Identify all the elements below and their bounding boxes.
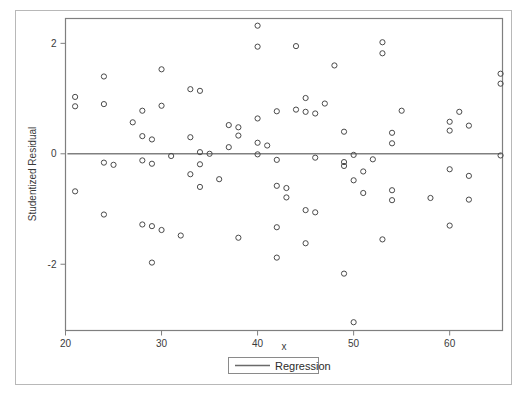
scatter-point — [149, 224, 154, 229]
scatter-point — [178, 233, 183, 238]
data-points — [73, 23, 504, 325]
scatter-point — [389, 188, 394, 193]
scatter-point — [389, 198, 394, 203]
x-tick-label: 30 — [156, 338, 168, 349]
scatter-point — [341, 129, 346, 134]
scatter-point — [140, 108, 145, 113]
x-axis-title: x — [282, 341, 287, 352]
scatter-point — [447, 119, 452, 124]
scatter-point — [73, 104, 78, 109]
y-axis-title: Studentized Residual — [27, 127, 38, 222]
scatter-point — [447, 128, 452, 133]
scatter-point — [265, 143, 270, 148]
scatter-point — [361, 169, 366, 174]
scatter-point — [274, 157, 279, 162]
scatter-point — [140, 222, 145, 227]
scatter-point — [351, 320, 356, 325]
chart-legend: Regression — [229, 358, 331, 374]
scatter-point — [399, 108, 404, 113]
scatter-point — [140, 134, 145, 139]
scatter-point — [466, 197, 471, 202]
scatter-point — [101, 212, 106, 217]
plot-frame — [66, 19, 503, 331]
scatter-point — [111, 162, 116, 167]
legend-label-regression: Regression — [275, 360, 331, 372]
scatter-point — [217, 177, 222, 182]
scatter-point — [313, 155, 318, 160]
scatter-point — [389, 130, 394, 135]
scatter-point — [303, 95, 308, 100]
chart-canvas: 20-2 2030405060 Studentized Residual x R… — [0, 0, 527, 396]
scatter-point — [447, 223, 452, 228]
scatter-point — [159, 227, 164, 232]
scatter-point — [73, 189, 78, 194]
x-tick-label: 20 — [60, 338, 72, 349]
scatter-point — [389, 141, 394, 146]
scatter-point — [284, 185, 289, 190]
scatter-point — [293, 44, 298, 49]
scatter-point — [255, 140, 260, 145]
x-tick-label: 40 — [252, 338, 264, 349]
scatter-point — [447, 167, 452, 172]
scatter-point — [274, 225, 279, 230]
scatter-point — [341, 271, 346, 276]
y-tick-label: 0 — [51, 148, 57, 159]
scatter-point — [159, 67, 164, 72]
x-tick-label: 60 — [444, 338, 456, 349]
scatter-point — [274, 255, 279, 260]
scatter-point — [380, 40, 385, 45]
scatter-point — [428, 195, 433, 200]
scatter-point — [197, 88, 202, 93]
scatter-point — [197, 184, 202, 189]
scatter-point — [101, 160, 106, 165]
scatter-point — [101, 74, 106, 79]
scatter-point — [101, 101, 106, 106]
scatter-point — [351, 178, 356, 183]
scatter-point — [73, 94, 78, 99]
scatter-point — [140, 158, 145, 163]
scatter-point — [197, 162, 202, 167]
scatter-point — [188, 87, 193, 92]
scatter-point — [159, 103, 164, 108]
scatter-point — [149, 260, 154, 265]
scatter-plot-chart: 20-2 2030405060 Studentized Residual x R… — [0, 0, 527, 396]
scatter-point — [457, 109, 462, 114]
scatter-point — [303, 208, 308, 213]
y-tick-label: -2 — [48, 259, 57, 270]
x-tick-label: 50 — [348, 338, 360, 349]
scatter-point — [293, 107, 298, 112]
scatter-point — [332, 63, 337, 68]
scatter-point — [255, 23, 260, 28]
scatter-point — [188, 135, 193, 140]
scatter-point — [322, 101, 327, 106]
scatter-point — [149, 137, 154, 142]
scatter-point — [226, 122, 231, 127]
scatter-point — [188, 172, 193, 177]
scatter-point — [236, 125, 241, 130]
scatter-point — [274, 183, 279, 188]
scatter-point — [130, 120, 135, 125]
scatter-point — [149, 161, 154, 166]
scatter-point — [303, 109, 308, 114]
scatter-point — [236, 133, 241, 138]
scatter-point — [380, 51, 385, 56]
scatter-point — [303, 241, 308, 246]
scatter-point — [380, 237, 385, 242]
scatter-point — [341, 163, 346, 168]
chart-page: 20-2 2030405060 Studentized Residual x R… — [0, 0, 527, 396]
y-axis-ticks: 20-2 — [48, 38, 66, 270]
scatter-point — [255, 116, 260, 121]
scatter-point — [284, 195, 289, 200]
scatter-point — [226, 145, 231, 150]
x-axis-ticks: 2030405060 — [60, 331, 456, 349]
scatter-point — [236, 235, 241, 240]
scatter-point — [255, 44, 260, 49]
scatter-point — [370, 157, 375, 162]
y-tick-label: 2 — [51, 38, 57, 49]
scatter-point — [313, 210, 318, 215]
scatter-point — [274, 109, 279, 114]
scatter-point — [466, 123, 471, 128]
scatter-point — [361, 190, 366, 195]
scatter-point — [313, 111, 318, 116]
scatter-point — [466, 173, 471, 178]
